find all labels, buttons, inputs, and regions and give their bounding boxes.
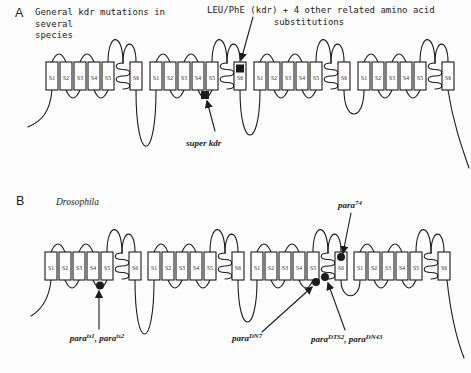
segment-label: S2 — [271, 75, 277, 81]
segment-label: S6 — [235, 265, 241, 271]
segment-label: S4 — [403, 75, 409, 81]
segment-label: S4 — [296, 265, 302, 271]
loop-s3-s4 — [184, 54, 198, 62]
interdomain-linker-2-3 — [238, 280, 257, 322]
interdomain-linker-1-2 — [135, 280, 154, 334]
loop-s5-pore — [416, 230, 431, 253]
pore-loop-coil — [324, 63, 338, 89]
segment-label: S1 — [153, 75, 159, 81]
segment-label: S3 — [282, 265, 288, 271]
panel-a-title-line-1: General kdr mutations in — [35, 7, 165, 17]
loop-s5-pore — [313, 230, 328, 253]
kdr-site-marker — [236, 65, 244, 73]
segment-label: S3 — [181, 75, 187, 81]
loop-s5-pore — [212, 40, 227, 63]
segment-label: S1 — [357, 265, 363, 271]
panel-a-title-line-2: several — [35, 19, 73, 29]
loop-s5-pore — [420, 40, 435, 63]
segment-label: S4 — [299, 75, 305, 81]
loop-s4-s5 — [94, 90, 108, 98]
pore-loop-coil — [424, 253, 438, 279]
para-dn7-arrow — [262, 287, 312, 332]
segment-label: S3 — [76, 265, 82, 271]
segment-label: S2 — [268, 265, 274, 271]
loop-s2-s3 — [274, 90, 288, 98]
segment-label: S2 — [167, 75, 173, 81]
segment-label: S1 — [48, 265, 54, 271]
loop-s3-s4 — [80, 54, 94, 62]
loop-s5-pore — [107, 230, 122, 253]
interdomain-linker-3-4 — [341, 280, 360, 296]
loop-s1-s2 — [257, 244, 271, 252]
segment-label: S5 — [417, 75, 423, 81]
loop-s3-s4 — [182, 244, 196, 252]
pore-loop-coil — [115, 253, 129, 279]
loop-s3-s4 — [79, 244, 93, 252]
segment-label: S4 — [91, 75, 97, 81]
pore-loop-coil — [116, 63, 130, 89]
segment-label: S5 — [209, 75, 215, 81]
segment-label: S3 — [285, 75, 291, 81]
super-kdr-arrow — [207, 101, 215, 131]
para-dn7-label: paraDN7 — [231, 332, 263, 344]
segment-label: S5 — [105, 75, 111, 81]
loop-pore-s6 — [227, 44, 240, 63]
loop-s3-s4 — [285, 244, 299, 252]
para-dn7-site-marker — [312, 278, 320, 286]
kdr-annotation-line-2: substitutions — [274, 17, 344, 27]
segment-label: S5 — [413, 265, 419, 271]
segment-label: S5 — [207, 265, 213, 271]
segment-label: S4 — [399, 265, 405, 271]
n-terminal-tail — [31, 280, 51, 316]
panel-a: A General kdr mutations in several speci… — [15, 5, 469, 168]
segment-label: S2 — [165, 265, 171, 271]
segment-label: S1 — [254, 265, 260, 271]
para-74-arrow — [343, 213, 351, 253]
loop-s4-s5 — [299, 280, 313, 288]
segment-label: S6 — [341, 75, 347, 81]
loop-pore-s6 — [435, 44, 448, 63]
c-terminal-tail — [447, 280, 464, 358]
segment-label: S2 — [63, 75, 69, 81]
segment-label: S6 — [132, 265, 138, 271]
loop-s3-s4 — [392, 54, 406, 62]
loop-s3-s4 — [288, 54, 302, 62]
figure-container: A General kdr mutations in several speci… — [0, 0, 471, 373]
segment-label: S1 — [361, 75, 367, 81]
segment-label: S6 — [133, 75, 139, 81]
segment-label: S5 — [313, 75, 319, 81]
loop-s4-s5 — [402, 280, 416, 288]
para-74-site-marker — [337, 253, 345, 261]
loop-s1-s2 — [154, 244, 168, 252]
para-ts-site-marker — [96, 282, 104, 290]
loop-s5-pore — [108, 40, 123, 63]
loop-s1-s2 — [51, 244, 65, 252]
para-74-label: para74 — [337, 199, 362, 211]
loop-s5-pore — [316, 40, 331, 63]
segment-label: S1 — [257, 75, 263, 81]
loop-s2-s3 — [374, 280, 388, 288]
n-terminal-tail — [28, 90, 52, 127]
segment-label: S6 — [237, 75, 243, 81]
loop-s1-s2 — [260, 54, 274, 62]
loop-s4-s5 — [196, 280, 210, 288]
segment-label: S5 — [104, 265, 110, 271]
segment-label: S6 — [445, 75, 451, 81]
pore-loop-coil — [218, 253, 232, 279]
segment-label: S2 — [375, 75, 381, 81]
segment-label: S6 — [441, 265, 447, 271]
loop-s4-s5 — [302, 90, 316, 98]
interdomain-linker-2-3 — [240, 90, 260, 135]
interdomain-linker-3-4 — [344, 90, 364, 114]
para-dts2-dn43-label: paraDTS2, paraDN43 — [310, 333, 383, 345]
segment-label: S6 — [338, 265, 344, 271]
loop-s2-s3 — [168, 280, 182, 288]
segment-label: S1 — [49, 75, 55, 81]
loop-pore-s6 — [123, 44, 136, 63]
interdomain-linker-1-2 — [136, 90, 156, 146]
kdr-annotation-arrow — [241, 17, 253, 60]
loop-s2-s3 — [66, 90, 80, 98]
segment-label: S5 — [310, 265, 316, 271]
loop-s2-s3 — [170, 90, 184, 98]
segment-label: S3 — [77, 75, 83, 81]
